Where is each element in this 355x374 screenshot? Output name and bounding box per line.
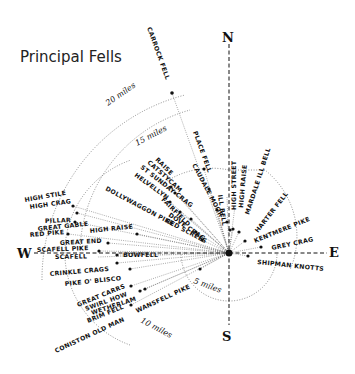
- svg-text:SHIPMAN KNOTTS: SHIPMAN KNOTTS: [257, 258, 325, 272]
- svg-text:CRINKLE CRAGS: CRINKLE CRAGS: [49, 265, 109, 277]
- compass-west: W: [16, 246, 32, 261]
- ring-label-10: 10 miles: [139, 316, 173, 340]
- principal-fells-diagram: Principal Fells N S E W: [0, 0, 355, 374]
- svg-text:CARROCK FELL: CARROCK FELL: [146, 26, 172, 81]
- svg-text:RED PIKE: RED PIKE: [29, 228, 64, 238]
- compass-east: E: [329, 245, 339, 260]
- ring-label-20: 20 miles: [103, 81, 137, 109]
- diagram-title: Principal Fells: [20, 48, 122, 66]
- compass-north: N: [222, 30, 234, 45]
- svg-text:HIGH STREET: HIGH STREET: [230, 160, 237, 210]
- svg-text:PIKE O' BLISCO: PIKE O' BLISCO: [64, 274, 121, 287]
- svg-text:SCAFELL: SCAFELL: [55, 252, 87, 260]
- svg-text:BOWFELL: BOWFELL: [123, 251, 158, 258]
- svg-text:MARDALE ILL BELL: MARDALE ILL BELL: [243, 147, 271, 216]
- svg-text:GREY CRAG: GREY CRAG: [271, 235, 314, 251]
- center-point: [226, 250, 233, 257]
- ring-label-5: 5 miles: [192, 276, 223, 294]
- fell-labels: CARROCK FELL PLACE FELL CAUDALE MOOR ILL…: [24, 26, 325, 354]
- compass-south: S: [222, 329, 231, 344]
- svg-text:WANSFELL PIKE: WANSFELL PIKE: [134, 283, 191, 314]
